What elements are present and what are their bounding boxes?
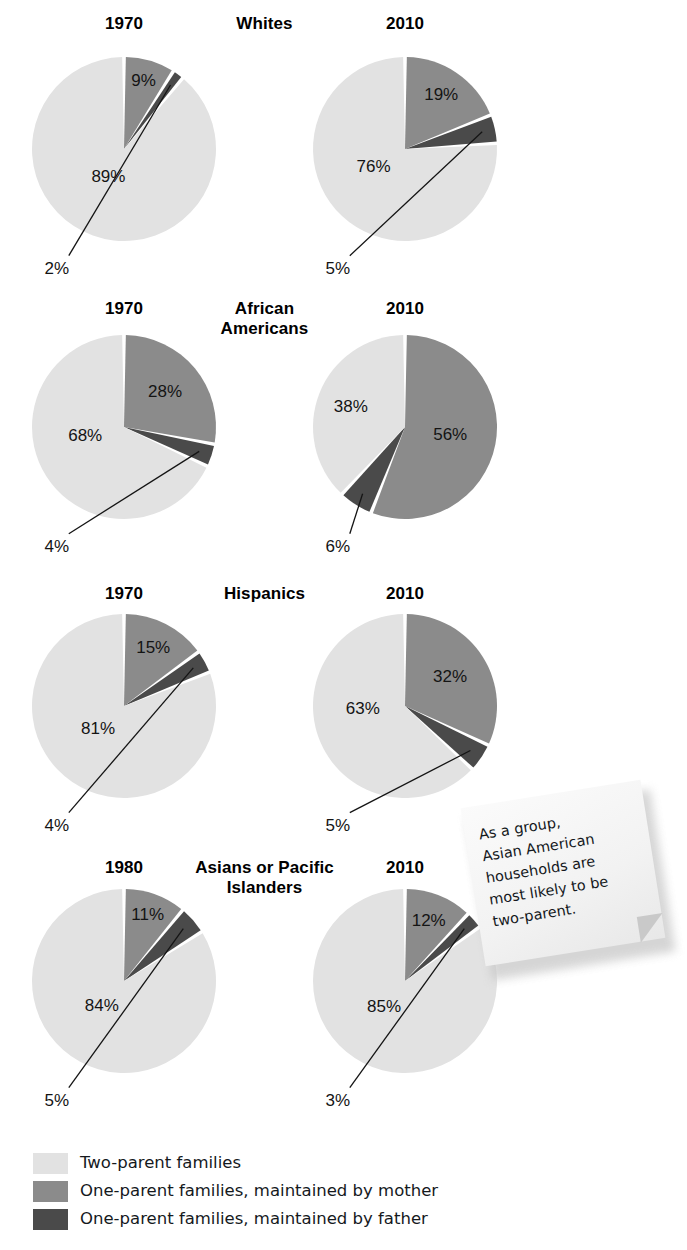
sticky-note: As a group, Asian American households ar… <box>472 793 668 969</box>
pie-slice-label: 12% <box>412 911 446 930</box>
sticky-note-text: As a group, Asian American households ar… <box>461 780 666 967</box>
legend-swatch <box>33 1153 68 1174</box>
pie-slice-label: 11% <box>131 905 164 924</box>
pie-slice-label: 85% <box>367 997 401 1016</box>
pie-chart: 11%5%84% <box>0 829 276 1159</box>
pie-slice-callout-label: 5% <box>45 1091 70 1110</box>
legend-label: One-parent families, maintained by mothe… <box>80 1183 438 1200</box>
pie-slice-label: 32% <box>433 667 467 686</box>
legend-label: Two-parent families <box>80 1155 241 1172</box>
pie-slice-label: 63% <box>346 699 380 718</box>
chart-legend: Two-parent familiesOne-parent families, … <box>33 1152 593 1236</box>
pie-slice-label: 38% <box>334 397 368 416</box>
legend-swatch <box>33 1181 68 1202</box>
pie-slice-label: 15% <box>136 638 170 657</box>
legend-label: One-parent families, maintained by fathe… <box>80 1211 428 1228</box>
pie-slice-label: 81% <box>81 719 115 738</box>
legend-item: One-parent families, maintained by fathe… <box>33 1208 593 1230</box>
pie-slice-label: 9% <box>131 71 156 90</box>
pie-slice-callout-label: 3% <box>326 1091 351 1110</box>
pie-slice-label: 28% <box>148 382 182 401</box>
legend-item: One-parent families, maintained by mothe… <box>33 1180 593 1202</box>
pie-slice-label: 68% <box>68 426 102 445</box>
pie-slice-label: 19% <box>424 85 458 104</box>
legend-item: Two-parent families <box>33 1152 593 1174</box>
pie-slice-label: 84% <box>85 996 119 1015</box>
pie-chart-container: 11%5%84% <box>0 829 276 1159</box>
pie-slice-label: 76% <box>356 157 390 176</box>
pie-slice-label: 89% <box>91 167 125 186</box>
legend-swatch <box>33 1209 68 1230</box>
pie-slice-label: 56% <box>433 425 467 444</box>
pie-chart-figure: 1970Whites20109%2%89%19%5%76%1970African… <box>0 0 687 1250</box>
